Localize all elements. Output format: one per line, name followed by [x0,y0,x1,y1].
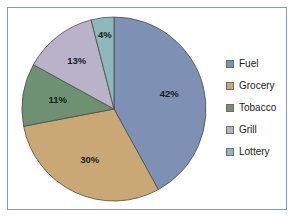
legend-label-lottery: Lottery [239,147,270,157]
pie-chart: 42%30%11%13%4% [13,8,213,211]
pie-slice-label-tobacco: 11% [48,94,67,105]
legend-swatch-icon-grill [226,126,234,134]
legend-swatch-icon-fuel [226,60,234,68]
legend-item-tobacco[interactable]: Tobacco [226,97,295,119]
legend-swatch-icon-lottery [226,148,234,156]
legend-item-grocery[interactable]: Grocery [226,75,295,97]
pie-slice-label-fuel: 42% [160,88,180,99]
legend-item-lottery[interactable]: Lottery [226,141,295,163]
legend-label-tobacco: Tobacco [239,103,276,113]
chart-frame: 42%30%11%13%4% Fuel Grocery Tobacco Gril… [7,7,287,210]
legend-label-fuel: Fuel [239,59,258,69]
chart-legend: Fuel Grocery Tobacco Grill Lottery [226,53,295,163]
pie-slice-label-grill: 13% [67,55,87,66]
legend-item-grill[interactable]: Grill [226,119,295,141]
legend-label-grocery: Grocery [239,81,275,91]
legend-swatch-icon-grocery [226,82,234,90]
legend-label-grill: Grill [239,125,257,135]
pie-chart-area: 42%30%11%13%4% [13,8,213,211]
legend-swatch-icon-tobacco [226,104,234,112]
pie-slice-label-grocery: 30% [80,154,100,165]
pie-slice-label-lottery: 4% [98,29,112,40]
legend-item-fuel[interactable]: Fuel [226,53,295,75]
